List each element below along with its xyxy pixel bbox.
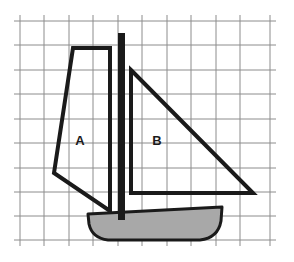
mast-shape bbox=[118, 33, 125, 220]
hull-shape bbox=[88, 207, 222, 240]
sail-a-label: A bbox=[75, 133, 85, 148]
sail-b-label: B bbox=[152, 133, 161, 148]
figure-root: A B bbox=[0, 0, 294, 262]
sailboat-grid-figure: A B bbox=[0, 0, 294, 262]
